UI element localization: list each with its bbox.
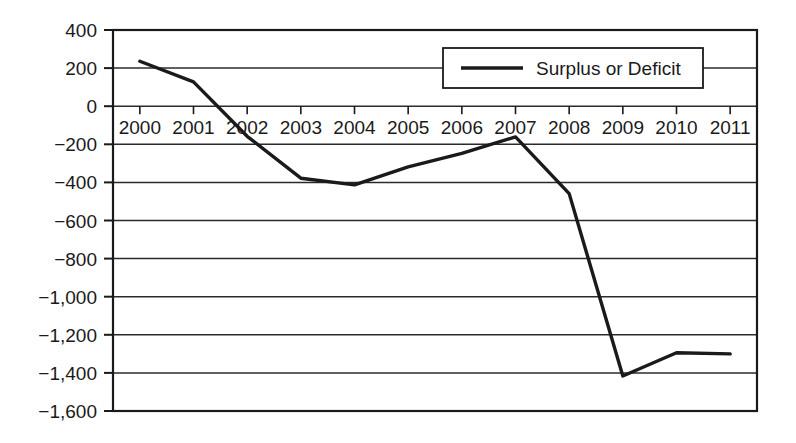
legend-label-surplus-or-deficit: Surplus or Deficit bbox=[536, 58, 681, 79]
x-axis-tick-label-2011: 2011 bbox=[710, 117, 751, 138]
y-axis-tick-label: −800 bbox=[54, 249, 97, 270]
x-axis-tick-label-2000: 2000 bbox=[119, 117, 161, 138]
x-axis-tick-label-2003: 2003 bbox=[280, 117, 322, 138]
y-axis-tick-label: −600 bbox=[54, 211, 97, 232]
y-axis-tick-label: −1,200 bbox=[38, 325, 97, 346]
legend: Surplus or Deficit bbox=[443, 48, 703, 88]
y-axis-tick-label: −400 bbox=[54, 172, 97, 193]
x-axis-tick-label-2007: 2007 bbox=[494, 117, 536, 138]
surplus-or-deficit-line-chart: 4002000−200−400−600−800−1,000−1,200−1,40… bbox=[0, 0, 796, 443]
x-axis-tick-label-2010: 2010 bbox=[655, 117, 697, 138]
x-axis-tick-label-2001: 2001 bbox=[172, 117, 214, 138]
x-axis-tick-label-2004: 2004 bbox=[333, 117, 376, 138]
x-axis-tick-label-2006: 2006 bbox=[441, 117, 483, 138]
y-axis-tick-label: −1,000 bbox=[38, 287, 97, 308]
y-axis-tick-label: 200 bbox=[65, 58, 97, 79]
x-axis-tick-label-2009: 2009 bbox=[602, 117, 644, 138]
y-axis-tick-label: −1,600 bbox=[38, 401, 97, 422]
y-axis-tick-label: −200 bbox=[54, 134, 97, 155]
x-axis-tick-label-2005: 2005 bbox=[387, 117, 429, 138]
x-axis-tick-label-2008: 2008 bbox=[548, 117, 590, 138]
y-axis-tick-label: 0 bbox=[86, 96, 97, 117]
y-axis-tick-label: −1,400 bbox=[38, 363, 97, 384]
y-axis-tick-label: 400 bbox=[65, 20, 97, 41]
